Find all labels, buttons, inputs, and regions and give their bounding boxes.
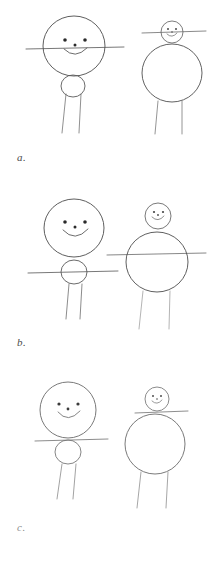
right-eye [83, 38, 87, 42]
left-leg [57, 464, 62, 499]
right-eye [76, 402, 79, 405]
left-eye [167, 28, 169, 30]
body-circle [126, 232, 188, 292]
left-eye [63, 38, 67, 42]
body-circle [55, 440, 81, 464]
left-leg [66, 284, 69, 319]
right-leg [169, 291, 170, 329]
left-leg [137, 472, 141, 508]
figure-a-right [142, 21, 206, 134]
arms-line [135, 411, 188, 413]
smile-mouth [152, 216, 164, 220]
left-leg [139, 291, 143, 329]
nose-dot [171, 31, 173, 33]
left-leg [155, 101, 158, 134]
smile-mouth [63, 229, 88, 236]
right-leg [79, 94, 81, 133]
nose-dot [74, 44, 77, 47]
body-circle [142, 44, 202, 102]
arms-line [26, 47, 124, 49]
head-circle [145, 203, 171, 229]
right-leg [73, 464, 76, 499]
sketch-sheet: a. b. c. [0, 0, 216, 565]
panel-label-c: c. [17, 522, 26, 533]
figure-drawing-canvas [0, 0, 216, 565]
figure-b-right [107, 203, 206, 329]
left-eye [153, 211, 155, 213]
nose-dot [74, 226, 77, 229]
arms-line [28, 271, 118, 273]
right-leg [80, 284, 82, 319]
figure-c-left [35, 382, 108, 499]
smile-mouth [152, 400, 162, 403]
panel-b-figures [28, 199, 206, 329]
right-eye [175, 28, 177, 30]
panel-label-b: b. [17, 337, 26, 348]
panel-a-figures [26, 16, 206, 134]
nose-dot [156, 398, 158, 400]
right-leg [166, 472, 168, 508]
smile-mouth [58, 411, 80, 418]
left-leg [62, 94, 66, 133]
panel-label-a: a. [17, 152, 26, 163]
body-circle [61, 75, 85, 97]
arms-line [107, 253, 206, 255]
nose-dot [157, 214, 159, 216]
left-eye [57, 402, 60, 405]
panel-c-figures [35, 382, 188, 508]
nose-dot [67, 408, 70, 411]
right-eye [83, 220, 87, 224]
right-eye [162, 211, 164, 213]
left-eye [152, 395, 154, 397]
figure-b-left [28, 199, 118, 319]
right-eye [160, 395, 162, 397]
smile-mouth [167, 33, 177, 36]
left-eye [63, 220, 67, 224]
figure-c-right [125, 387, 188, 508]
smile-mouth [64, 48, 87, 54]
figure-a-left [26, 16, 124, 133]
arms-line [142, 31, 206, 33]
body-circle [125, 414, 185, 474]
